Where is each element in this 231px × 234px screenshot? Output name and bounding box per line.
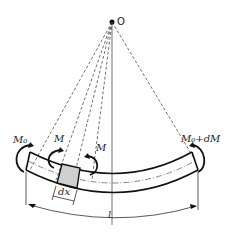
radial-lines bbox=[30, 22, 195, 185]
center-label: O bbox=[117, 16, 125, 27]
label-M0-dM: M₀+dM bbox=[180, 133, 221, 144]
label-l: l bbox=[108, 209, 111, 220]
label-M0: M₀ bbox=[12, 134, 27, 145]
beam-element bbox=[57, 164, 80, 188]
label-M-left: M bbox=[53, 133, 65, 144]
arrow-heads bbox=[28, 142, 195, 159]
curved-beam-diagram: O M₀ M M M₀+dM dx bbox=[0, 0, 231, 234]
label-M-right: M bbox=[95, 142, 107, 153]
beam-axis bbox=[28, 161, 195, 183]
label-dx: dx bbox=[58, 186, 70, 197]
